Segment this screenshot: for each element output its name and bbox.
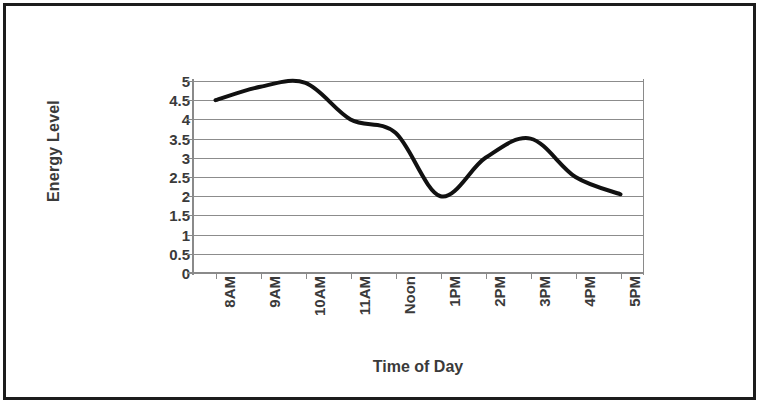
- y-tick-label: 3.5: [146, 131, 190, 146]
- y-tick-label: 2: [146, 189, 190, 204]
- x-tick-label: 5PM: [627, 276, 642, 346]
- x-tick-label: 1PM: [447, 276, 462, 346]
- y-tick-label: 1: [146, 227, 190, 242]
- y-tick-label: 4: [146, 112, 190, 127]
- x-tick-label: 8AM: [222, 276, 237, 346]
- plot-area: [193, 81, 643, 273]
- y-tick-label: 2.5: [146, 170, 190, 185]
- y-axis-title: Energy Level: [45, 51, 63, 251]
- x-tick-label: 3PM: [537, 276, 552, 346]
- y-axis-tick-labels: 54.543.532.521.510.50: [146, 74, 190, 274]
- x-axis-tick-labels: 8AM9AM10AM11AMNoon1PM2PM3PM4PM5PM: [193, 276, 643, 346]
- y-tick-label: 5: [146, 74, 190, 89]
- x-tick-label: 10AM: [312, 276, 327, 346]
- x-tick-label: 11AM: [357, 276, 372, 346]
- x-tick-label: 4PM: [582, 276, 597, 346]
- x-tick-label: 2PM: [492, 276, 507, 346]
- y-tick-label: 4.5: [146, 93, 190, 108]
- image-frame: Energy Level 54.543.532.521.510.50 8AM9A…: [3, 3, 756, 400]
- y-tick-label: 0.5: [146, 246, 190, 261]
- x-axis-title: Time of Day: [193, 358, 643, 376]
- x-tick-label: Noon: [402, 276, 417, 346]
- data-series-line: [193, 81, 643, 273]
- x-tick-label: 9AM: [267, 276, 282, 346]
- y-tick-label: 0: [146, 266, 190, 281]
- y-tick-label: 1.5: [146, 208, 190, 223]
- y-tick-label: 3: [146, 150, 190, 165]
- plot-right-border: [643, 79, 644, 275]
- energy-level-line-chart: Energy Level 54.543.532.521.510.50 8AM9A…: [6, 6, 759, 403]
